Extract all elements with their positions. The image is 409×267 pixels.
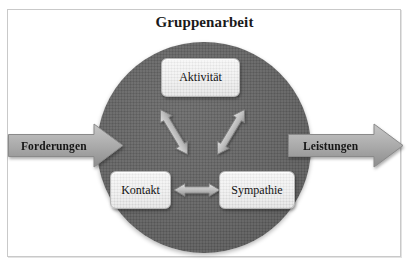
- flow-arrow-output: Leistungen: [288, 123, 404, 168]
- node-sympathie[interactable]: Sympathie: [219, 171, 295, 209]
- diagram-canvas: Gruppenarbeit Forderungen: [0, 0, 409, 267]
- node-aktivitaet-label: Aktivität: [179, 70, 222, 85]
- double-arrow-icon: [151, 104, 197, 160]
- double-arrow-icon: [208, 104, 254, 160]
- diagram-title: Gruppenarbeit: [0, 14, 409, 31]
- node-sympathie-label: Sympathie: [231, 183, 282, 198]
- flow-arrow-input: Forderungen: [8, 123, 124, 168]
- connector-kontakt-sympathie: [173, 179, 221, 201]
- double-arrow-icon: [173, 179, 221, 201]
- connector-kontakt-aktivitaet: [151, 104, 197, 160]
- node-kontakt-label: Kontakt: [121, 183, 160, 198]
- connector-aktivitaet-sympathie: [208, 104, 254, 160]
- node-aktivitaet[interactable]: Aktivität: [161, 58, 240, 97]
- flow-arrow-output-label: Leistungen: [303, 123, 358, 168]
- flow-arrow-input-label: Forderungen: [21, 123, 87, 168]
- node-kontakt[interactable]: Kontakt: [110, 171, 171, 209]
